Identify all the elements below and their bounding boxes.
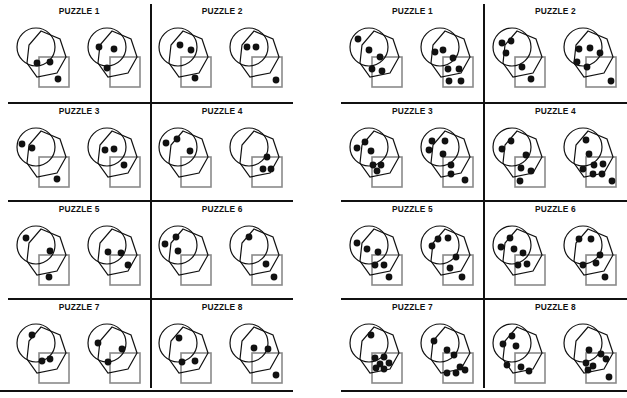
- circle-shape: [88, 128, 126, 166]
- circle-shape: [493, 324, 531, 362]
- puzzle-figure: [151, 215, 221, 297]
- square-shape: [39, 255, 69, 285]
- puzzle-panel-pair: [151, 117, 294, 199]
- heptagon-shape: [27, 229, 66, 275]
- circle-shape: [159, 324, 197, 362]
- puzzle-figure: [556, 17, 626, 99]
- dot-marker: [522, 152, 529, 159]
- dot-marker: [371, 355, 378, 362]
- dot-marker: [124, 262, 131, 269]
- dot-marker: [175, 248, 182, 255]
- dot-marker: [354, 36, 361, 43]
- dot-marker: [101, 147, 108, 154]
- puzzle-title: PUZZLE 7: [17, 301, 142, 313]
- dot-marker: [368, 66, 375, 73]
- dot-marker: [527, 76, 534, 83]
- heptagon-shape: [98, 131, 137, 177]
- dot-marker: [445, 66, 452, 73]
- dot-marker: [506, 235, 513, 242]
- puzzle-figure: [485, 17, 555, 99]
- puzzle-figure: [413, 117, 483, 199]
- dot-marker: [432, 49, 439, 56]
- dot-marker: [516, 178, 523, 185]
- square-shape: [181, 157, 211, 187]
- dot-marker: [46, 356, 53, 363]
- dot-marker: [192, 358, 199, 365]
- dot-marker: [507, 138, 514, 145]
- dot-marker: [110, 146, 117, 153]
- dot-marker: [588, 236, 595, 243]
- dot-marker: [519, 250, 526, 257]
- dot-marker: [28, 145, 35, 152]
- puzzle-title: PUZZLE 6: [159, 203, 284, 215]
- puzzle-title: PUZZLE 5: [350, 203, 476, 215]
- circle-shape: [159, 128, 197, 166]
- puzzle-panel-pair: [8, 117, 151, 199]
- dot-marker: [46, 59, 53, 66]
- square-shape: [39, 353, 69, 383]
- puzzle-figure: [80, 117, 150, 199]
- dot-marker: [353, 145, 360, 152]
- dot-marker: [462, 367, 469, 374]
- puzzle-figure: [413, 215, 483, 297]
- dot-marker: [431, 338, 438, 345]
- square-shape: [181, 353, 211, 383]
- puzzle-figure: [9, 313, 79, 395]
- heptagon-shape: [98, 327, 137, 373]
- dot-marker: [377, 162, 384, 169]
- dot-marker: [361, 139, 368, 146]
- dot-marker: [246, 234, 253, 241]
- dot-marker: [580, 166, 587, 173]
- puzzle-figure: [485, 215, 555, 297]
- dot-marker: [53, 176, 60, 183]
- square-shape: [515, 255, 545, 285]
- dot-marker: [94, 340, 101, 347]
- puzzle-title: PUZZLE 3: [17, 105, 142, 117]
- puzzle-panel-pair: [151, 215, 294, 297]
- dot-marker: [273, 77, 280, 84]
- puzzle-figure: [9, 117, 79, 199]
- dot-marker: [448, 171, 455, 178]
- puzzle-title: PUZZLE 8: [159, 301, 284, 313]
- circle-shape: [421, 128, 459, 166]
- dot-marker: [117, 250, 124, 257]
- puzzle-title: PUZZLE 2: [159, 5, 284, 17]
- circle-shape: [230, 324, 268, 362]
- dot-marker: [576, 46, 583, 53]
- heptagon-shape: [240, 327, 279, 373]
- dot-marker: [458, 78, 465, 85]
- dot-marker: [444, 347, 451, 354]
- dot-marker: [33, 60, 40, 67]
- dot-marker: [599, 171, 606, 178]
- dot-marker: [510, 246, 517, 253]
- square-shape: [110, 353, 140, 383]
- dot-marker: [598, 351, 605, 358]
- dot-marker: [46, 248, 53, 255]
- circle-shape: [88, 28, 126, 66]
- dot-marker: [28, 332, 35, 339]
- dot-marker: [583, 360, 590, 367]
- puzzle-figure: [485, 313, 555, 395]
- dot-marker: [268, 166, 275, 173]
- square-shape: [39, 157, 69, 187]
- dot-marker: [251, 345, 258, 352]
- dot-marker: [104, 359, 111, 366]
- puzzle-figure: [80, 313, 150, 395]
- dot-marker: [451, 352, 458, 359]
- dot-marker: [120, 162, 127, 169]
- puzzle-figure: [485, 117, 555, 199]
- puzzle-cell: PUZZLE 4: [484, 102, 627, 200]
- puzzle-cell: PUZZLE 7: [8, 298, 151, 396]
- puzzle-panel-pair: [151, 17, 294, 99]
- puzzle-title: PUZZLE 1: [350, 5, 476, 17]
- puzzle-cell: PUZZLE 4: [151, 102, 294, 200]
- dot-marker: [456, 66, 463, 73]
- dot-marker: [453, 370, 460, 377]
- puzzle-figure: [151, 313, 221, 395]
- circle-shape: [88, 226, 126, 264]
- dot-marker: [603, 356, 610, 363]
- dot-marker: [447, 265, 454, 272]
- square-shape: [110, 157, 140, 187]
- dot-marker: [576, 236, 583, 243]
- circle-shape: [564, 128, 602, 166]
